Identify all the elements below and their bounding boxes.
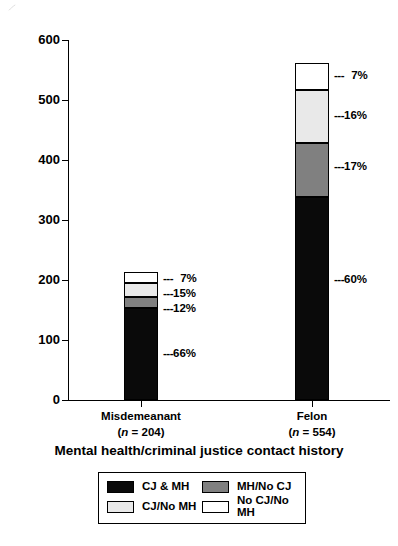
y-tick-label-300: 300 <box>8 213 60 226</box>
leader-dash: --- <box>334 69 344 81</box>
callout-value: 7% <box>180 272 197 284</box>
y-tick-100 <box>62 340 68 341</box>
legend-label-mh-no-cj: MH/No CJ <box>237 481 291 493</box>
callout-value: 66% <box>173 347 196 359</box>
x-tick-misdemeanant <box>141 401 142 407</box>
x-axis-line <box>68 400 390 401</box>
legend-grid: CJ & MH MH/No CJ CJ/No MH No CJ/No MH <box>99 473 305 523</box>
callout-misdemeanant-cj-and-mh: ---66% <box>163 348 196 360</box>
n-value: = 204) <box>128 426 164 438</box>
x-category-sublabel: (n = 204) <box>81 425 201 441</box>
x-category-sublabel: (n = 554) <box>252 425 372 441</box>
bar-segment-misdemeanant-cj-no-mh <box>124 283 158 297</box>
y-tick-label-500: 500 <box>8 93 60 106</box>
callout-value: 17% <box>344 160 367 172</box>
callout-misdemeanant-mh-no-cj: ---12% <box>163 303 196 315</box>
leader-dash: --- <box>334 109 344 121</box>
callout-value: 60% <box>344 273 367 285</box>
legend-swatch-mh-no-cj-icon <box>202 481 229 493</box>
y-axis-line <box>68 40 69 401</box>
legend-label-cj-no-mh: CJ/No MH <box>142 501 196 513</box>
x-category-label: Misdemeanant <box>81 409 201 425</box>
y-tick-label-400: 400 <box>8 153 60 166</box>
bar-segment-felon-cj-no-mh <box>295 90 329 143</box>
legend-label-cj-and-mh: CJ & MH <box>142 481 189 493</box>
leader-dash: --- <box>334 160 344 172</box>
legend-item-mh-no-cj[interactable]: MH/No CJ <box>202 481 297 493</box>
legend-swatch-cj-and-mh-icon <box>107 481 134 493</box>
y-tick-label-200: 200 <box>8 273 60 286</box>
callout-felon-no-cj-no-mh: --- 7% <box>334 70 368 82</box>
leader-dash: --- <box>163 347 173 359</box>
legend-label-no-cj-no-mh: No CJ/No MH <box>237 495 297 518</box>
leader-dash: --- <box>334 273 344 285</box>
bar-segment-felon-cj-and-mh <box>295 197 329 400</box>
y-tick-300 <box>62 220 68 221</box>
legend: CJ & MH MH/No CJ CJ/No MH No CJ/No MH <box>98 472 306 524</box>
legend-item-no-cj-no-mh[interactable]: No CJ/No MH <box>202 495 297 518</box>
x-category-misdemeanant: Misdemeanant (n = 204) <box>81 409 201 440</box>
y-tick-500 <box>62 100 68 101</box>
y-tick-600 <box>62 40 68 41</box>
bar-segment-felon-no-cj-no-mh <box>295 63 329 90</box>
legend-item-cj-and-mh[interactable]: CJ & MH <box>107 481 202 493</box>
callout-value: 12% <box>173 302 196 314</box>
bar-segment-felon-mh-no-cj <box>295 143 329 197</box>
bar-misdemeanant <box>124 272 158 400</box>
plot-area: 600 500 400 300 200 100 0 --- 7% ---15% <box>0 0 398 546</box>
callout-felon-mh-no-cj: ---17% <box>334 161 367 173</box>
x-tick-felon <box>312 401 313 407</box>
y-tick-400 <box>62 160 68 161</box>
leader-dash: --- <box>163 272 173 284</box>
callout-misdemeanant-cj-no-mh: ---15% <box>163 288 196 300</box>
x-category-felon: Felon (n = 554) <box>252 409 372 440</box>
y-tick-label-0: 0 <box>8 393 60 406</box>
legend-swatch-no-cj-no-mh-icon <box>202 501 229 513</box>
callout-value: 16% <box>344 109 367 121</box>
n-value: = 554) <box>299 426 335 438</box>
y-tick-label-100: 100 <box>8 333 60 346</box>
y-tick-200 <box>62 280 68 281</box>
y-tick-label-600: 600 <box>8 33 60 46</box>
y-tick-0 <box>62 400 68 401</box>
leader-dash: --- <box>163 302 173 314</box>
leader-dash: --- <box>163 287 173 299</box>
callout-felon-cj-and-mh: ---60% <box>334 274 367 286</box>
x-category-label: Felon <box>252 409 372 425</box>
stacked-bar-chart: 600 500 400 300 200 100 0 --- 7% ---15% <box>0 0 398 546</box>
bar-felon <box>295 63 329 400</box>
legend-item-cj-no-mh[interactable]: CJ/No MH <box>107 501 202 513</box>
callout-misdemeanant-no-cj-no-mh: --- 7% <box>163 273 197 285</box>
callout-value: 7% <box>351 69 368 81</box>
callout-value: 15% <box>173 287 196 299</box>
bar-segment-misdemeanant-no-cj-no-mh <box>124 272 158 283</box>
x-axis-title: Mental health/criminal justice contact h… <box>0 443 398 458</box>
callout-felon-cj-no-mh: ---16% <box>334 110 367 122</box>
bar-segment-misdemeanant-cj-and-mh <box>124 308 158 400</box>
bar-segment-misdemeanant-mh-no-cj <box>124 297 158 308</box>
legend-swatch-cj-no-mh-icon <box>107 501 134 513</box>
